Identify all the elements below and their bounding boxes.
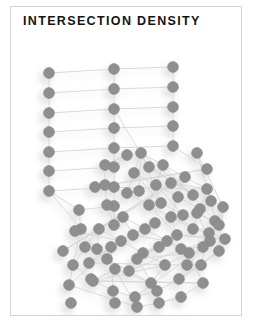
graph-node xyxy=(198,242,209,253)
graph-node xyxy=(188,190,199,201)
graph-node xyxy=(122,150,133,161)
graph-node xyxy=(214,246,225,257)
graph-node xyxy=(44,108,55,119)
graph-node xyxy=(109,104,120,115)
graph-edge-shadow xyxy=(46,93,111,97)
graph-node xyxy=(90,182,101,193)
graph-node xyxy=(109,123,120,134)
graph-node xyxy=(70,226,81,237)
graph-node xyxy=(180,172,191,183)
graph-node xyxy=(176,292,187,303)
graph-node xyxy=(74,205,85,216)
graph-node xyxy=(128,230,139,241)
graph-node xyxy=(100,160,111,171)
graph-node xyxy=(152,286,163,297)
graph-node xyxy=(136,148,147,159)
graph-node xyxy=(44,186,55,197)
graph-node xyxy=(168,102,179,113)
graph-node xyxy=(204,228,215,239)
graph-node xyxy=(158,160,169,171)
graph-node xyxy=(80,242,91,253)
graph-node xyxy=(198,278,209,289)
graph-edge-shadow xyxy=(111,71,170,73)
graph-edge-shadow xyxy=(111,130,170,132)
graph-node xyxy=(100,180,111,191)
graph-node xyxy=(44,68,55,79)
graph-node xyxy=(168,82,179,93)
network-graph-plot xyxy=(11,7,242,316)
graph-node xyxy=(109,220,120,231)
graph-node xyxy=(134,186,145,197)
graph-node xyxy=(110,298,121,309)
graph-node xyxy=(108,286,119,297)
graph-node xyxy=(168,121,179,132)
graph-node xyxy=(192,148,203,159)
graph-node xyxy=(116,236,127,247)
graph-node xyxy=(58,246,69,257)
graph-node xyxy=(88,276,99,287)
graph-node xyxy=(172,230,183,241)
graph-node xyxy=(118,212,129,223)
graph-node xyxy=(154,298,165,309)
graph-node xyxy=(124,266,135,277)
graph-edge-shadow xyxy=(111,111,170,113)
graph-edge-shadow xyxy=(46,113,111,117)
graph-node xyxy=(68,260,79,271)
graph-node xyxy=(92,244,103,255)
graph-node xyxy=(150,218,161,229)
graph-node xyxy=(144,162,155,173)
graph-node xyxy=(64,280,75,291)
graph-node xyxy=(140,224,151,235)
graph-node xyxy=(174,274,185,285)
graph-node xyxy=(166,212,177,223)
graph-node xyxy=(130,292,141,303)
graph-node xyxy=(44,147,55,158)
graph-node xyxy=(144,200,155,211)
graph-node xyxy=(168,62,179,73)
graph-node xyxy=(156,198,167,209)
graph-node xyxy=(109,143,120,154)
graph-node xyxy=(182,260,193,271)
graph-edge-shadow xyxy=(46,132,111,136)
graph-node xyxy=(44,127,55,138)
graph-node xyxy=(94,224,105,235)
graph-node xyxy=(196,260,207,271)
graph-edge-shadow xyxy=(46,73,111,77)
graph-node xyxy=(132,254,143,265)
graph-node xyxy=(166,178,177,189)
graph-node xyxy=(173,192,184,203)
graph-node xyxy=(110,264,121,275)
graph-node xyxy=(151,180,162,191)
graph-node xyxy=(44,88,55,99)
graph-node xyxy=(44,166,55,177)
graph-edge xyxy=(173,146,207,169)
graph-node xyxy=(176,244,187,255)
graph-node xyxy=(154,242,165,253)
graph-node xyxy=(109,84,120,95)
graph-edge-shadow xyxy=(46,152,111,156)
graph-node xyxy=(168,141,179,152)
graph-node xyxy=(132,302,143,313)
graph-node xyxy=(160,260,171,271)
graph-node xyxy=(202,164,213,175)
graph-node xyxy=(218,202,229,213)
graph-node xyxy=(202,184,213,195)
graph-node xyxy=(66,298,77,309)
graph-node xyxy=(122,188,133,199)
graph-node xyxy=(206,196,217,207)
graph-node xyxy=(129,168,140,179)
graph-edge-shadow xyxy=(111,91,170,93)
network-graph-svg xyxy=(11,7,242,316)
graph-node xyxy=(109,64,120,75)
graph-node xyxy=(188,224,199,235)
graph-node xyxy=(84,258,95,269)
graph-node xyxy=(106,242,117,253)
graph-node xyxy=(178,210,189,221)
graph-edge xyxy=(69,285,137,307)
graph-node xyxy=(214,220,225,231)
graph-node xyxy=(220,234,231,245)
visualization-card: INTERSECTION DENSITY xyxy=(10,6,242,316)
graph-node xyxy=(102,200,113,211)
graph-node xyxy=(102,254,113,265)
graph-node xyxy=(192,208,203,219)
